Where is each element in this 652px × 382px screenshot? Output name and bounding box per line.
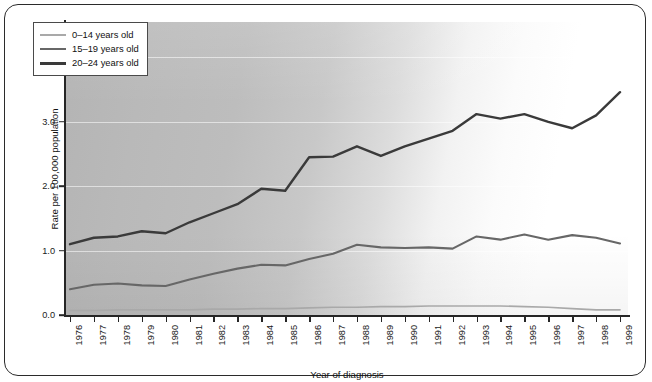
x-tick-mark	[333, 317, 334, 322]
x-tick-label: 1989	[385, 325, 395, 345]
x-tick-mark	[429, 317, 430, 322]
x-tick-mark	[237, 317, 238, 322]
x-tick-mark	[142, 317, 143, 322]
legend-label-20-24: 20–24 years old	[72, 58, 139, 67]
x-tick-label: 1995	[528, 325, 538, 345]
x-tick-label: 1982	[217, 325, 227, 345]
x-tick-label: 1981	[194, 325, 204, 345]
legend-swatch-20-24	[40, 62, 66, 65]
x-tick-label: 1985	[289, 325, 299, 345]
legend-item-20-24: 20–24 years old	[40, 56, 139, 70]
x-tick-label: 1978	[122, 325, 132, 345]
x-tick-label: 1998	[600, 325, 610, 345]
legend-swatch-0-14	[40, 34, 66, 36]
x-tick-mark	[261, 317, 262, 322]
x-tick-label: 1980	[170, 325, 180, 345]
x-axis-title: Year of diagnosis	[66, 369, 628, 380]
x-tick-label: 1994	[504, 325, 514, 345]
x-tick-mark	[500, 317, 501, 322]
x-tick-mark	[596, 317, 597, 322]
x-tick-mark	[118, 317, 119, 322]
legend-label-0-14: 0–14 years old	[72, 30, 134, 39]
x-tick-label: 1976	[74, 325, 84, 345]
series-line	[70, 306, 620, 311]
x-tick-mark	[381, 317, 382, 322]
figure: 0.01.02.03.04.0 Rate per 100,000 populat…	[0, 0, 652, 382]
y-tick-mark	[59, 314, 64, 316]
x-tick-label: 1997	[576, 325, 586, 345]
plot-area	[66, 22, 628, 315]
x-tick-label: 1984	[265, 325, 275, 345]
x-tick-label: 1992	[457, 325, 467, 345]
x-tick-label: 1987	[337, 325, 347, 345]
series-lines	[66, 22, 628, 315]
x-tick-label: 1983	[241, 325, 251, 345]
x-tick-mark	[166, 317, 167, 322]
y-tick-label: 1.0	[42, 246, 55, 256]
legend-item-0-14: 0–14 years old	[40, 28, 139, 42]
x-tick-mark	[620, 317, 621, 322]
legend-item-15-19: 15–19 years old	[40, 42, 139, 56]
x-tick-mark	[477, 317, 478, 322]
x-tick-label: 1990	[409, 325, 419, 345]
x-tick-label: 1977	[98, 325, 108, 345]
x-tick-mark	[453, 317, 454, 322]
series-line	[70, 235, 620, 290]
x-tick-label: 1988	[361, 325, 371, 345]
x-tick-mark	[213, 317, 214, 322]
x-tick-mark	[94, 317, 95, 322]
x-tick-mark	[285, 317, 286, 322]
x-tick-label: 1999	[624, 325, 634, 345]
legend: 0–14 years old 15–19 years old 20–24 yea…	[33, 22, 148, 76]
legend-swatch-15-19	[40, 48, 66, 50]
legend-label-15-19: 15–19 years old	[72, 44, 139, 53]
x-tick-label: 1991	[433, 325, 443, 345]
y-axis-title: Rate per 100,000 population	[49, 108, 60, 229]
x-tick-mark	[70, 317, 71, 322]
x-tick-label: 1996	[552, 325, 562, 345]
x-tick-mark	[572, 317, 573, 322]
x-tick-label: 1986	[313, 325, 323, 345]
x-tick-mark	[524, 317, 525, 322]
x-tick-mark	[190, 317, 191, 322]
y-tick-label: 0.0	[42, 310, 55, 320]
series-line	[70, 92, 620, 244]
x-tick-mark	[357, 317, 358, 322]
x-tick-label: 1979	[146, 325, 156, 345]
x-tick-label: 1993	[481, 325, 491, 345]
y-tick-mark	[59, 250, 64, 252]
x-tick-mark	[548, 317, 549, 322]
x-tick-mark	[405, 317, 406, 322]
y-axis-title-wrap: Rate per 100,000 population	[0, 22, 30, 315]
x-axis-ticks: Year of diagnosis 1976197719781979198019…	[66, 317, 628, 381]
x-tick-mark	[309, 317, 310, 322]
